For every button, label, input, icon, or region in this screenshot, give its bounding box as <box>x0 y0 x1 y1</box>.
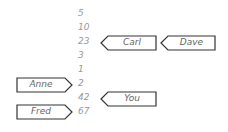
you-label: You <box>108 91 156 106</box>
dave-pointer: Dave <box>160 35 216 50</box>
anne-label: Anne <box>17 77 65 92</box>
you-pointer: You <box>100 91 157 106</box>
value-4: 1 <box>78 64 84 74</box>
fred-pointer: Fred <box>16 104 73 119</box>
value-6: 42 <box>78 92 89 102</box>
carl-label: Carl <box>108 35 156 50</box>
value-0: 5 <box>78 8 84 18</box>
value-3: 3 <box>78 50 84 60</box>
value-1: 10 <box>78 22 89 32</box>
dave-label: Dave <box>168 35 215 50</box>
carl-pointer: Carl <box>100 35 157 50</box>
fred-label: Fred <box>17 104 65 119</box>
value-7: 67 <box>78 106 89 116</box>
value-5: 2 <box>78 78 84 88</box>
anne-pointer: Anne <box>16 77 73 92</box>
value-2: 23 <box>78 36 89 46</box>
